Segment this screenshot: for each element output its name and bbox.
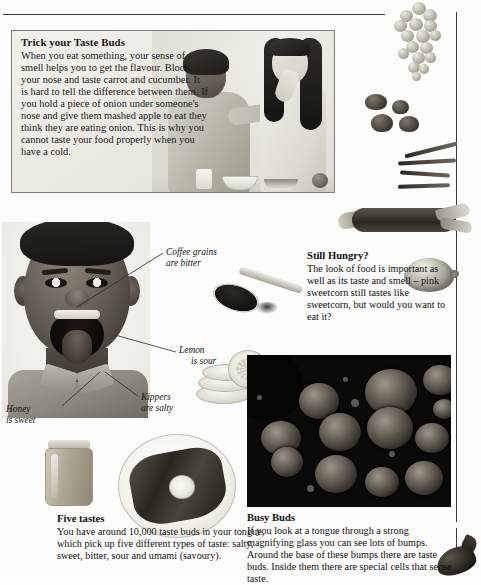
micrograph-texture: [389, 451, 395, 457]
boy-open-mouth-tongue-photo: [2, 222, 150, 418]
caption-line: Kippers: [141, 392, 203, 403]
busy-buds-body: If you look at a tongue through a strong…: [247, 525, 453, 585]
micrograph-texture: [307, 485, 314, 492]
taste-bud-papilla: [433, 399, 451, 419]
tongue-taste-buds-micrograph: [247, 355, 451, 507]
green-beans-photo: [398, 148, 462, 196]
trick-panel-heading: Trick your Taste Buds: [21, 36, 209, 49]
taste-bud-papilla: [415, 423, 449, 453]
caption-honey-is-sweet: Honey is sweet: [6, 404, 60, 426]
caption-line: Coffee grains: [166, 247, 256, 258]
taste-bud-papilla: [365, 467, 399, 497]
taste-bud-papilla: [423, 365, 451, 395]
mushrooms-photo: [365, 92, 427, 140]
micrograph-texture: [351, 399, 359, 407]
boy-face-tongue: [62, 330, 92, 364]
boy-face-eye-right: [86, 278, 108, 288]
trick-panel-text: Trick your Taste Buds When you eat somet…: [21, 36, 209, 158]
busy-buds-section: Busy Buds If you look at a tongue throug…: [247, 512, 453, 585]
caption-line: are salty: [141, 403, 203, 414]
sweetcorn-cob-photo: [338, 204, 466, 238]
still-hungry-section: Still Hungry? The look of food is import…: [307, 250, 455, 324]
top-divider-rule: [3, 14, 385, 15]
girl-fringe: [270, 38, 310, 56]
girl-hand-pinching-nose: [286, 58, 302, 72]
spoon-rim: [209, 278, 263, 318]
caption-line: is sour: [179, 356, 239, 367]
still-hungry-body: The look of food is important as well as…: [307, 263, 455, 324]
boy-face-hair: [20, 222, 134, 266]
glass-photo: [196, 169, 212, 189]
honey-jar-highlight: [51, 454, 58, 498]
busy-buds-heading: Busy Buds: [247, 512, 453, 525]
spilled-coffee-grains: [256, 302, 278, 314]
honey-jar-photo: [45, 440, 93, 506]
girl-figure: [256, 40, 334, 192]
lemon-slice-garnish: [169, 475, 195, 499]
taste-bud-papilla: [405, 461, 443, 495]
boy-face-eye-left: [45, 278, 67, 288]
five-tastes-heading: Five tastes: [57, 513, 269, 526]
boy-face-teeth: [54, 310, 100, 319]
caption-kippers-are-salty: Kippers are salty: [141, 392, 203, 414]
taste-bud-papilla: [315, 455, 357, 493]
five-tastes-section: Five tastes You have around 10,000 taste…: [57, 513, 269, 562]
caption-line: Honey: [6, 404, 60, 415]
right-divider-rule-middle: [456, 222, 457, 522]
trick-panel-body: When you eat something, your sense of sm…: [21, 50, 209, 159]
spoon-of-coffee-grains-photo: [196, 272, 304, 320]
still-hungry-heading: Still Hungry?: [307, 250, 455, 263]
taste-bud-papilla: [271, 447, 303, 477]
taste-bud-papilla: [367, 407, 413, 449]
grapes-photo: [392, 2, 448, 82]
five-tastes-body: You have around 10,000 taste buds in you…: [57, 526, 269, 562]
apple-photo: [312, 173, 328, 188]
caption-coffee-grains-are-bitter: Coffee grains are bitter: [166, 247, 256, 269]
micrograph-texture: [257, 395, 262, 400]
taste-bud-papilla: [319, 413, 361, 451]
boy-face-nose: [65, 290, 89, 308]
micrograph-texture: [343, 377, 348, 382]
caption-line: are bitter: [166, 258, 256, 269]
caption-line: Lemon: [179, 345, 239, 356]
micrograph-dark-corner: [247, 355, 303, 419]
caption-line: is sweet: [6, 415, 60, 426]
caption-lemon-is-sour: Lemon is sour: [179, 345, 239, 367]
trick-your-taste-buds-panel: Trick your Taste Buds When you eat somet…: [11, 30, 335, 193]
